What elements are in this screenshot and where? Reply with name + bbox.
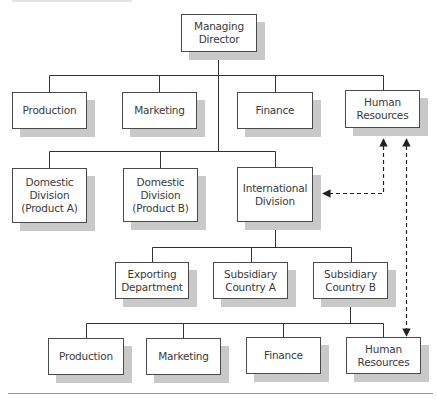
node-subsidiary-marketing: Marketing <box>146 338 221 375</box>
node-marketing: Marketing <box>122 92 197 129</box>
node-label: Finance <box>264 349 303 362</box>
node-label: Exporting Department <box>121 268 183 294</box>
node-label: Production <box>59 350 113 363</box>
node-human-resources: Human Resources <box>345 90 420 128</box>
node-label: Managing Director <box>194 20 244 46</box>
node-finance: Finance <box>237 92 313 129</box>
node-managing-director: Managing Director <box>181 14 257 52</box>
hr-to-international-dashed-arrow <box>323 139 384 194</box>
node-label: Subsidiary Country A <box>224 268 277 294</box>
node-label: Finance <box>256 104 295 117</box>
node-international-division: International Division <box>237 167 313 222</box>
bottom-rule-divider <box>8 393 433 394</box>
node-exporting-department: Exporting Department <box>115 262 189 299</box>
node-label: Subsidiary Country B <box>324 268 377 294</box>
node-label: Domestic Division (Product A) <box>21 176 77 215</box>
node-label: Marketing <box>134 104 185 117</box>
node-label: International Division <box>243 182 307 208</box>
node-label: Marketing <box>158 350 209 363</box>
node-label: Production <box>23 104 77 117</box>
node-subsidiary-finance: Finance <box>246 337 321 374</box>
node-subsidiary-country-a: Subsidiary Country A <box>213 262 288 299</box>
node-subsidiary-country-b: Subsidiary Country B <box>313 262 388 299</box>
node-label: Human Resources <box>357 96 409 122</box>
org-chart: Managing Director Production Marketing F… <box>0 0 437 399</box>
node-label: Human Resources <box>358 343 410 369</box>
node-label: Domestic Division (Product B) <box>132 176 188 215</box>
node-domestic-division-a: Domestic Division (Product A) <box>12 168 87 223</box>
node-subsidiary-human-resources: Human Resources <box>346 337 421 374</box>
node-subsidiary-production: Production <box>48 338 124 375</box>
node-domestic-division-b: Domestic Division (Product B) <box>123 168 198 222</box>
node-production: Production <box>12 92 87 129</box>
